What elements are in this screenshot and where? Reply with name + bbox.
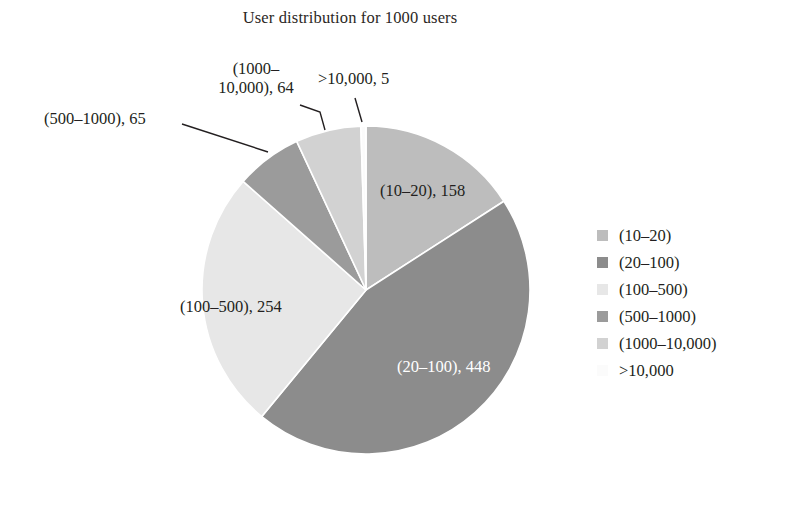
slice-label-10-20: (10–20), 158 — [380, 181, 465, 200]
pie-chart-figure: User distribution for 1000 users (10–20)… — [0, 0, 791, 518]
legend-swatch-icon — [597, 338, 608, 349]
legend-item[interactable]: (100–500) — [597, 276, 787, 303]
legend-swatch-icon — [597, 284, 608, 295]
callout-label-1000-10000: (1000–10,000), 64 — [196, 60, 316, 98]
legend-item[interactable]: (500–1000) — [597, 303, 787, 330]
chart-legend: (10–20)(20–100)(100–500)(500–1000)(1000–… — [597, 222, 787, 384]
callout-label-500-1000: (500–1000), 65 — [44, 110, 146, 129]
leader-line-gt-10000 — [355, 98, 362, 122]
legend-swatch-icon — [597, 311, 608, 322]
legend-item[interactable]: (20–100) — [597, 249, 787, 276]
legend-swatch-icon — [597, 257, 608, 268]
leader-line-500-1000 — [182, 124, 268, 152]
callout-label-1000-10000-line2: 10,000), 64 — [218, 78, 294, 97]
legend-swatch-icon — [597, 365, 608, 376]
legend-item[interactable]: (10–20) — [597, 222, 787, 249]
legend-item-label: >10,000 — [619, 361, 674, 381]
callout-label-gt-10000: >10,000, 5 — [318, 70, 389, 89]
pie-slices-group — [202, 126, 530, 454]
legend-item-label: (10–20) — [619, 226, 671, 246]
legend-item-label: (1000–10,000) — [619, 334, 717, 354]
leader-line-1000-10000 — [300, 105, 325, 130]
legend-item-label: (500–1000) — [619, 307, 696, 327]
legend-item[interactable]: >10,000 — [597, 357, 787, 384]
slice-label-20-100: (20–100), 448 — [397, 357, 491, 376]
legend-swatch-icon — [597, 230, 608, 241]
legend-item[interactable]: (1000–10,000) — [597, 330, 787, 357]
callout-label-1000-10000-line1: (1000– — [233, 59, 280, 78]
legend-item-label: (20–100) — [619, 253, 680, 273]
legend-item-label: (100–500) — [619, 280, 688, 300]
slice-label-100-500: (100–500), 254 — [180, 297, 282, 316]
